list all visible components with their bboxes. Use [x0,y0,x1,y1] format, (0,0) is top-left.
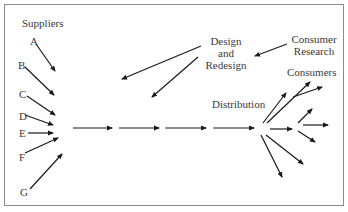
supplier-d-arrow [25,115,53,125]
consumer-arrow-8 [266,135,303,164]
supplier-f-arrow [25,138,58,153]
consumer-research-line1: Consumer [286,33,342,45]
design-line1: Design [200,35,252,47]
consumer-arrow-5 [298,109,312,123]
supplier-a-label: A [30,35,38,47]
supplier-b-label: B [18,59,25,71]
supplier-e-label: E [19,127,26,139]
design-label: Design and Redesign [200,35,252,71]
supplier-c-label: C [19,88,26,100]
supplier-b-arrow [25,67,54,95]
consumer-arrow-7 [298,131,315,142]
supplier-f-label: F [19,151,25,163]
supplier-a-arrow [36,44,55,71]
supplier-c-arrow [27,96,55,115]
supplier-d-label: D [19,110,27,122]
supplier-g-label: G [20,186,28,198]
design-line2: and [200,47,252,59]
supplier-g-arrow [30,154,62,189]
consumer-research-line2: Research [286,45,342,57]
arrow-layer [0,0,348,212]
design-to-suppliers-arrow [122,46,201,79]
distribution-label: Distribution [212,98,265,110]
suppliers-label: Suppliers [22,17,64,29]
consumers-label: Consumers [287,66,337,78]
consumer-arrow-9 [261,135,282,177]
design-line3: Redesign [200,59,252,71]
research-to-design-arrow [255,44,287,56]
consumer-research-label: Consumer Research [286,33,342,57]
consumer-arrow-3 [293,87,322,97]
